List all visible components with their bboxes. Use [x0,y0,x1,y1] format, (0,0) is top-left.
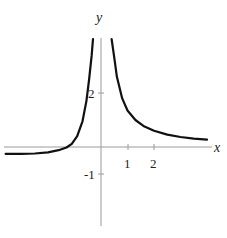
x-axis-label: x [213,140,221,155]
curve-left-branch [6,39,93,154]
curve-right-branch [112,39,207,140]
x-tick-label-2: 2 [150,156,157,171]
function-graph: y x 1 2 2 -1 [0,0,227,238]
y-tick-label-2: 2 [88,86,95,101]
y-axis-label: y [94,10,103,25]
x-tick-label-1: 1 [124,156,131,171]
y-tick-label-neg1: -1 [84,167,95,182]
